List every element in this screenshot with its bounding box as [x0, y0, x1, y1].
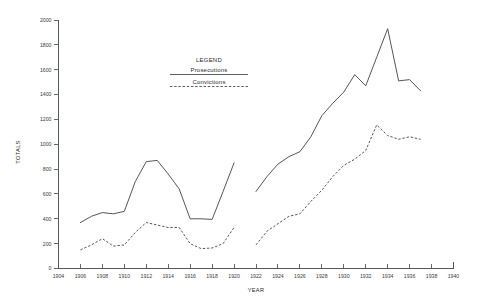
- y-tick-label: 1000: [40, 141, 52, 147]
- x-tick-label: 1908: [97, 273, 109, 279]
- x-tick-label: 1914: [162, 273, 174, 279]
- x-tick-label: 1938: [426, 273, 438, 279]
- y-tick-label: 1200: [40, 116, 52, 122]
- x-tick-label: 1904: [53, 273, 65, 279]
- chart-background: [0, 0, 492, 299]
- line-chart: 0200400600800100012001400160018002000 19…: [0, 0, 492, 299]
- legend-entry-prosecutions: Prosecutions: [190, 67, 227, 73]
- y-axis-title: TOTALS: [15, 140, 21, 163]
- x-tick-label: 1940: [448, 273, 460, 279]
- x-axis-title: YEAR: [248, 287, 265, 293]
- legend-title: LEGEND: [196, 57, 222, 63]
- x-tick-label: 1932: [360, 273, 372, 279]
- x-tick-label: 1920: [228, 273, 240, 279]
- x-tick-label: 1928: [316, 273, 328, 279]
- x-tick-label: 1910: [119, 273, 131, 279]
- x-tick-label: 1906: [75, 273, 87, 279]
- x-tick-label: 1934: [382, 273, 394, 279]
- x-tick-label: 1918: [206, 273, 218, 279]
- x-tick-label: 1936: [404, 273, 416, 279]
- x-tick-label: 1922: [250, 273, 262, 279]
- x-tick-label: 1912: [141, 273, 153, 279]
- legend-entry-convictions: Convictions: [192, 79, 225, 85]
- chart-container: 0200400600800100012001400160018002000 19…: [0, 0, 492, 299]
- x-tick-label: 1926: [294, 273, 306, 279]
- x-tick-label: 1916: [184, 273, 196, 279]
- y-tick-label: 0: [49, 265, 52, 271]
- y-tick-label: 1400: [40, 91, 52, 97]
- y-tick-label: 200: [43, 241, 52, 247]
- y-tick-label: 400: [43, 216, 52, 222]
- y-tick-label: 600: [43, 191, 52, 197]
- y-tick-label: 1600: [40, 67, 52, 73]
- y-tick-label: 2000: [40, 17, 52, 23]
- y-tick-label: 800: [43, 166, 52, 172]
- x-tick-label: 1924: [272, 273, 284, 279]
- x-tick-label: 1930: [338, 273, 350, 279]
- y-tick-label: 1800: [40, 42, 52, 48]
